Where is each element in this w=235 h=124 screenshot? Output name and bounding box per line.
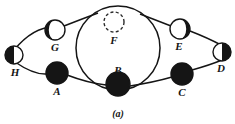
node-f <box>104 12 124 32</box>
node-label-b: B <box>113 64 121 76</box>
node-label-h: H <box>10 66 20 78</box>
node-d <box>213 43 231 61</box>
orbital-diagram: ABCDEFGH (a) <box>0 0 235 124</box>
node-label-d: D <box>216 62 225 74</box>
figure-container: ABCDEFGH (a) <box>0 0 235 124</box>
orbit-arc-upper-right-arc <box>190 31 221 45</box>
node-g <box>45 20 65 40</box>
node-e <box>170 19 190 39</box>
orbit-arc-lower-left-arc <box>15 62 47 74</box>
figure-caption: (a) <box>112 108 124 120</box>
node-c <box>171 63 193 85</box>
node-label-c: C <box>178 86 186 98</box>
node-label-g: G <box>51 41 59 53</box>
node-h <box>5 46 23 64</box>
node-a <box>46 62 68 84</box>
node-label-a: A <box>52 85 60 97</box>
orbit-arc-lower-right-link <box>130 77 172 86</box>
node-label-f: F <box>109 34 118 46</box>
node-label-e: E <box>174 40 182 52</box>
node-group <box>5 12 231 96</box>
